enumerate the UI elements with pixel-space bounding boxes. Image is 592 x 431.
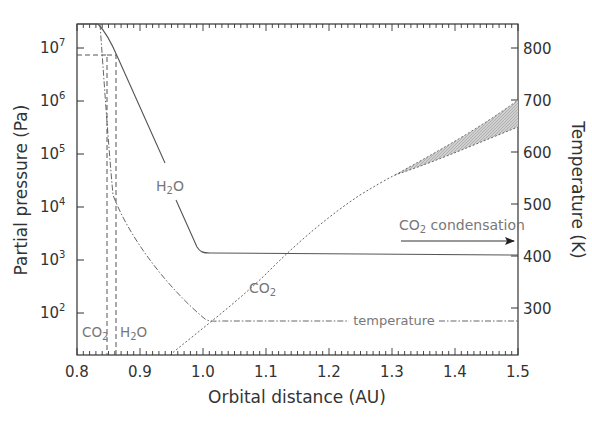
y2-tick-label: 700 — [523, 92, 552, 110]
x-tick-label: 1.0 — [191, 363, 215, 381]
h2o-marker-label: H2O — [120, 324, 147, 342]
h2o-marker-main: H — [120, 324, 130, 340]
y2-tick-label: 400 — [523, 248, 552, 266]
chart: 0.80.91.01.11.21.31.41.5 107106105104103… — [0, 0, 592, 431]
h2o-label-main: H — [156, 178, 167, 194]
x-tick-label: 1.3 — [380, 363, 404, 381]
y-tick-label: 105 — [40, 143, 65, 163]
co2-upper-bound-line — [395, 100, 518, 175]
x-tick-label: 0.9 — [128, 363, 152, 381]
temperature-curve — [100, 24, 349, 321]
condensation-label-tail: condensation — [426, 217, 525, 233]
h2o-curve — [77, 24, 165, 163]
co2-marker-main: CO — [82, 324, 102, 340]
x-axis-ticks — [77, 24, 518, 355]
condensation-label-main: CO — [399, 217, 420, 233]
y-tick-label: 106 — [40, 90, 65, 110]
co2-marker-sub: 2 — [102, 331, 108, 342]
co2-curve-label: CO2 — [249, 280, 276, 298]
y-tick-label: 102 — [40, 302, 65, 322]
y-tick-label: 103 — [40, 249, 65, 269]
y-axis-ticks — [77, 48, 84, 313]
co2-condensation-marker — [77, 55, 107, 355]
x-axis-label: Orbital distance (AU) — [208, 387, 386, 407]
y2-axis-ticks — [511, 48, 518, 308]
condensation-markers — [77, 55, 116, 355]
y-tick-label: 107 — [40, 37, 65, 57]
y-axis-label: Partial pressure (Pa) — [11, 105, 31, 276]
x-tick-label: 1.5 — [506, 363, 530, 381]
x-axis-tick-labels: 0.80.91.01.11.21.31.41.5 — [65, 363, 530, 381]
y2-tick-label: 300 — [523, 300, 552, 318]
y2-tick-label: 800 — [523, 40, 552, 58]
co2-label-main: CO — [249, 280, 270, 296]
h2o-condensation-marker — [107, 55, 116, 355]
h2o-marker-tail: O — [137, 324, 148, 340]
y2-tick-label: 500 — [523, 196, 552, 214]
y2-axis-label: Temperature (K) — [568, 120, 588, 259]
y-axis-tick-labels: 107106105104103102 — [40, 37, 65, 322]
x-tick-label: 1.2 — [317, 363, 341, 381]
x-tick-label: 1.1 — [254, 363, 278, 381]
y2-axis-tick-labels: 800700600500400300 — [523, 40, 552, 318]
co2-shaded-region — [395, 100, 518, 175]
co2-condensation-label: CO2 condensation — [399, 217, 525, 235]
h2o-curve-label: H2O — [156, 178, 184, 196]
x-tick-label: 0.8 — [65, 363, 89, 381]
temperature-curve-label: temperature — [353, 313, 435, 328]
co2-label-sub: 2 — [270, 287, 276, 298]
y-tick-label: 104 — [40, 196, 65, 216]
y2-tick-label: 600 — [523, 144, 552, 162]
x-tick-label: 1.4 — [443, 363, 467, 381]
h2o-label-tail: O — [173, 178, 184, 194]
co2-marker-label: CO2 — [82, 324, 108, 342]
plot-frame — [77, 24, 518, 355]
